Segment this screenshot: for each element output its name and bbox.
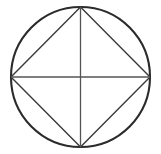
figure-canvas: Circle with inscribed square and diamete…: [0, 0, 161, 154]
geometric-figure: Circle with inscribed square and diamete…: [0, 0, 161, 154]
